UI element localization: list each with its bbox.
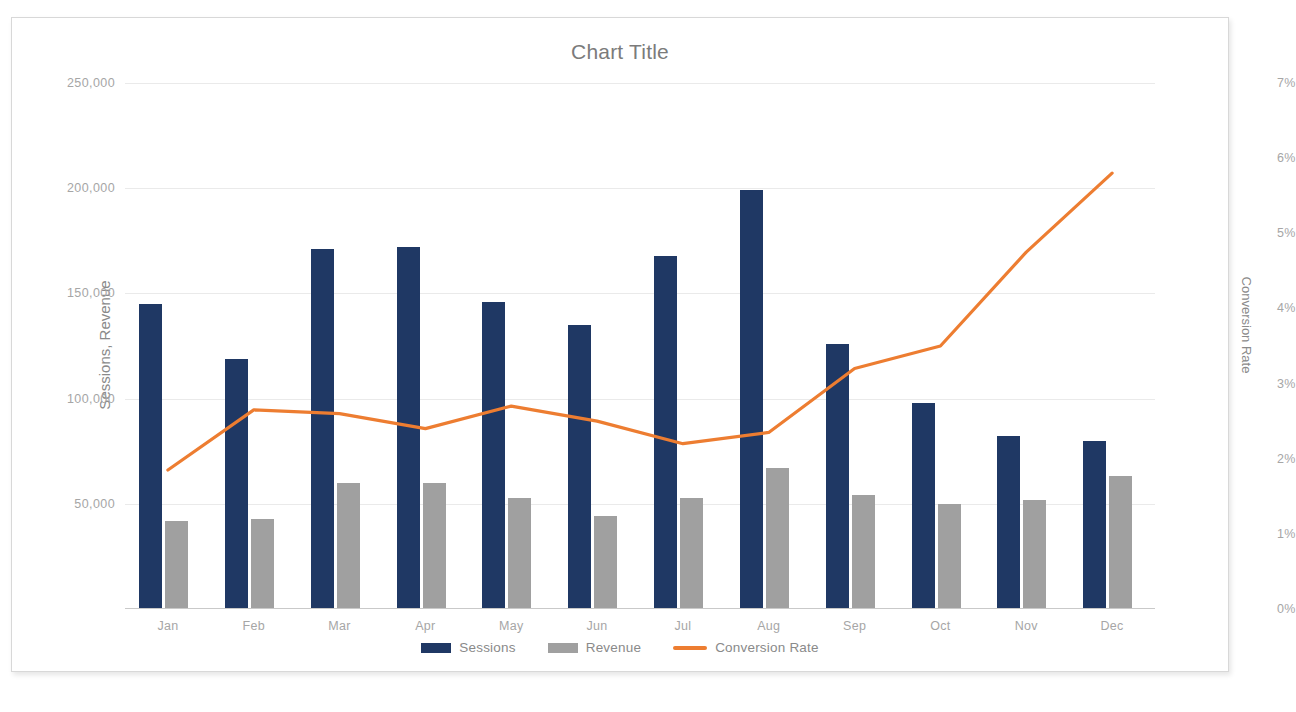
bar-sessions[interactable] (654, 256, 677, 609)
y-axis-left-tick-label: 100,000 (17, 392, 115, 406)
bar-revenue[interactable] (1109, 476, 1132, 609)
bar-sessions[interactable] (482, 302, 505, 609)
legend-label: Conversion Rate (715, 640, 819, 655)
bar-revenue[interactable] (938, 504, 961, 609)
legend-item[interactable]: Revenue (548, 640, 641, 655)
x-axis-tick-label: Aug (726, 619, 812, 633)
bar-group (211, 83, 297, 609)
bar-sessions[interactable] (740, 190, 763, 609)
bar-sessions[interactable] (311, 249, 334, 609)
bar-sessions[interactable] (912, 403, 935, 609)
bar-group (383, 83, 469, 609)
bar-revenue[interactable] (337, 483, 360, 609)
bar-group (983, 83, 1069, 609)
legend-item[interactable]: Sessions (421, 640, 515, 655)
bar-sessions[interactable] (1083, 441, 1106, 609)
x-axis-tick-label: Jul (640, 619, 726, 633)
chart-frame[interactable]: Chart Title Sessions, Revenue Conversion… (11, 17, 1229, 672)
bar-sessions[interactable] (826, 344, 849, 609)
bar-group (297, 83, 383, 609)
x-axis-tick-label: Dec (1069, 619, 1155, 633)
bar-revenue[interactable] (423, 483, 446, 609)
x-axis-tick-label: May (468, 619, 554, 633)
chart-legend[interactable]: SessionsRevenueConversion Rate (12, 640, 1228, 655)
y-axis-right-tick-label: 3% (1277, 377, 1296, 391)
bar-sessions[interactable] (139, 304, 162, 609)
legend-label: Sessions (459, 640, 515, 655)
x-axis-tick-label: Jun (554, 619, 640, 633)
legend-bar-swatch-icon (548, 643, 578, 653)
x-axis-tick-label: Oct (897, 619, 983, 633)
bar-group (812, 83, 898, 609)
y-axis-right-tick-label: 6% (1277, 151, 1296, 165)
plot-area: 50,000100,000150,000200,000250,000 0%1%2… (125, 83, 1155, 609)
legend-label: Revenue (586, 640, 641, 655)
bar-revenue[interactable] (766, 468, 789, 609)
y-axis-left-tick-label: 150,000 (17, 286, 115, 300)
bar-group (468, 83, 554, 609)
bar-group (726, 83, 812, 609)
x-axis-tick-label: Apr (382, 619, 468, 633)
y-axis-right-tick-label: 4% (1277, 301, 1296, 315)
bar-sessions[interactable] (225, 359, 248, 609)
bar-group (898, 83, 984, 609)
x-axis-tick-label: Jan (125, 619, 211, 633)
x-axis-tick-label: Nov (983, 619, 1069, 633)
bar-sessions[interactable] (568, 325, 591, 609)
chart-title[interactable]: Chart Title (12, 40, 1228, 64)
bar-sessions[interactable] (997, 436, 1020, 609)
y-axis-right-tick-label: 0% (1277, 602, 1296, 616)
y-axis-left-tick-label: 200,000 (17, 181, 115, 195)
y-axis-left-tick-label: 50,000 (17, 497, 115, 511)
y-axis-left-tick-label: 250,000 (17, 76, 115, 90)
x-axis-tick-label: Feb (211, 619, 297, 633)
bar-sessions[interactable] (397, 247, 420, 609)
y-axis-right-tick-label: 2% (1277, 452, 1296, 466)
bar-revenue[interactable] (594, 516, 617, 609)
bar-group (125, 83, 211, 609)
bar-group (1069, 83, 1155, 609)
bar-group (554, 83, 640, 609)
y-axis-right-tick-label: 5% (1277, 226, 1296, 240)
bar-group (640, 83, 726, 609)
bar-revenue[interactable] (251, 519, 274, 609)
x-axis-baseline (125, 608, 1155, 609)
bar-revenue[interactable] (680, 498, 703, 610)
x-axis-tick-label: Sep (812, 619, 898, 633)
bar-revenue[interactable] (852, 495, 875, 609)
x-axis-tick-label: Mar (297, 619, 383, 633)
bar-revenue[interactable] (508, 498, 531, 610)
legend-item[interactable]: Conversion Rate (673, 640, 819, 655)
y-axis-right-tick-label: 7% (1277, 76, 1296, 90)
y-axis-right-tick-label: 1% (1277, 527, 1296, 541)
legend-bar-swatch-icon (421, 643, 451, 653)
legend-line-swatch-icon (673, 646, 707, 650)
y-axis-right-title[interactable]: Conversion Rate (1239, 276, 1254, 373)
bar-revenue[interactable] (165, 521, 188, 609)
bar-revenue[interactable] (1023, 500, 1046, 609)
